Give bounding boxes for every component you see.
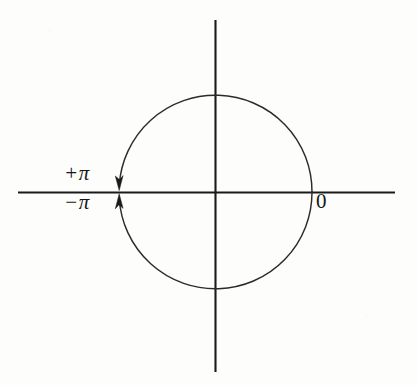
down-arrow-head: [115, 176, 123, 191]
label-plus-pi: +π: [64, 163, 90, 184]
label-origin: 0: [316, 191, 327, 212]
contour-diagram-svg: [0, 0, 417, 385]
up-arrow-head: [115, 194, 123, 209]
figure-root: +π −π 0: [0, 0, 417, 385]
label-minus-pi: −π: [64, 192, 90, 213]
